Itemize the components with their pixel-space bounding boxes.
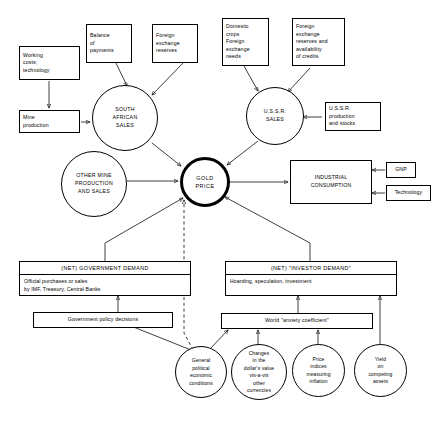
node-competing-yield-label: Yield on competing assets: [369, 356, 393, 386]
node-investor-demand: (NET) "INVESTOR DEMAND" Hoarding, specul…: [225, 261, 397, 296]
node-competing-yield: Yield on competing assets: [354, 344, 407, 397]
node-domestic-crops-label: Domestic crops Foreign exchange needs: [226, 23, 265, 61]
node-south-african-sales-label: SOUTH AFRICAN SALES: [113, 106, 138, 129]
node-domestic-crops: Domestic crops Foreign exchange needs: [222, 18, 269, 66]
node-balance-of-payments-label: Balance of payments: [90, 32, 128, 55]
node-mine-production: Mine production: [19, 110, 80, 133]
gold-price-flow-diagram: Working costs; technology Mine productio…: [0, 0, 431, 425]
node-technology-label: Technology: [395, 189, 423, 197]
node-fx-reserves-credits: Foreign exchange reserves and availabili…: [292, 18, 345, 66]
node-working-costs-label: Working costs; technology: [23, 52, 76, 75]
node-ussr-production-label: U.S.S.R. production and stocks: [329, 105, 377, 128]
node-anxiety-coefficient: World "anxiety coefficient": [221, 313, 373, 329]
node-dollar-value-label: Changes in the dollar's value vis-a-vis …: [244, 350, 274, 395]
node-general-conditions-label: General political economic conditions: [189, 357, 213, 387]
node-industrial-consumption-label: INDUSTRIAL CONSUMPTION: [311, 174, 352, 189]
node-ussr-sales: U.S.S.R. SALES: [246, 87, 304, 145]
node-investor-demand-title: (NET) "INVESTOR DEMAND": [226, 262, 396, 275]
node-foreign-exchange-reserves-label: Foreign exchange reserves: [156, 32, 194, 55]
node-dollar-value: Changes in the dollar's value vis-a-vis …: [231, 344, 287, 400]
node-government-demand-body: Official purchases or sales by IMF, Trea…: [20, 275, 190, 297]
node-other-mine-production-label: OTHER MINE PRODUCTION AND SALES: [75, 172, 113, 195]
node-gnp-label: GNP: [395, 166, 407, 174]
node-technology: Technology: [386, 185, 431, 201]
node-price-indices: Price indices measuring inflation: [292, 344, 345, 397]
node-gold-price-label: GOLD PRICE: [196, 174, 215, 190]
node-working-costs: Working costs; technology: [19, 46, 80, 80]
node-balance-of-payments: Balance of payments: [86, 24, 132, 63]
node-government-policy: Government policy decisions: [33, 312, 173, 328]
node-gold-price: GOLD PRICE: [180, 157, 230, 207]
node-foreign-exchange-reserves: Foreign exchange reserves: [152, 24, 198, 63]
node-fx-reserves-credits-label: Foreign exchange reserves and availabili…: [296, 23, 341, 61]
node-anxiety-coefficient-label: World "anxiety coefficient": [265, 317, 329, 325]
node-general-conditions: General political economic conditions: [175, 346, 227, 398]
node-investor-demand-body: Hoarding, speculation, investment: [226, 275, 396, 289]
node-south-african-sales: SOUTH AFRICAN SALES: [92, 85, 158, 151]
node-other-mine-production: OTHER MINE PRODUCTION AND SALES: [61, 151, 127, 217]
node-ussr-sales-label: U.S.S.R. SALES: [264, 108, 287, 124]
node-price-indices-label: Price indices measuring inflation: [306, 356, 330, 386]
node-mine-production-label: Mine production: [23, 114, 76, 129]
node-industrial-consumption: INDUSTRIAL CONSUMPTION: [290, 160, 372, 204]
node-ussr-production: U.S.S.R. production and stocks: [325, 102, 381, 131]
node-government-demand: (NET) GOVERNMENT DEMAND Official purchas…: [19, 261, 191, 296]
node-gnp: GNP: [386, 162, 416, 178]
node-government-demand-title: (NET) GOVERNMENT DEMAND: [20, 262, 190, 275]
node-government-policy-label: Government policy decisions: [68, 316, 138, 324]
